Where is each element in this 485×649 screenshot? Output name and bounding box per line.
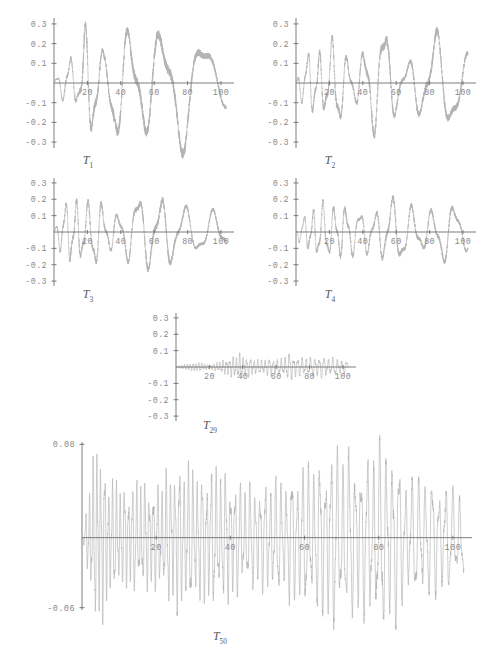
svg-text:-0.1: -0.1 — [267, 244, 289, 254]
panel-t4: 204060801000.30.20.1-0.1-0.2-0.3T4 — [250, 170, 478, 300]
panel-t2: 204060801000.30.20.1-0.1-0.2-0.3T2 — [250, 6, 478, 166]
svg-text:-0.2: -0.2 — [267, 261, 289, 271]
svg-text:80: 80 — [182, 88, 193, 98]
svg-text:60: 60 — [271, 372, 282, 382]
svg-text:60: 60 — [149, 237, 160, 247]
svg-text:-0.2: -0.2 — [267, 118, 289, 128]
svg-text:100: 100 — [455, 237, 471, 247]
svg-text:T3: T3 — [83, 287, 94, 304]
svg-text:40: 40 — [237, 372, 248, 382]
svg-text:-0.1: -0.1 — [267, 99, 289, 109]
svg-text:-0.1: -0.1 — [25, 99, 47, 109]
svg-text:T2: T2 — [325, 153, 336, 170]
svg-text:80: 80 — [304, 372, 315, 382]
svg-text:40: 40 — [225, 543, 236, 553]
panel-t1-plot: 204060801000.30.20.1-0.1-0.2-0.3T1 — [25, 18, 234, 170]
time-series-figure: 204060801000.30.20.1-0.1-0.2-0.3T1 20406… — [0, 0, 485, 649]
svg-text:-0.3: -0.3 — [25, 138, 47, 148]
svg-text:T50: T50 — [213, 629, 227, 646]
svg-text:0.3: 0.3 — [273, 20, 289, 30]
svg-text:0.1: 0.1 — [273, 59, 289, 69]
svg-text:0.2: 0.2 — [153, 330, 169, 340]
svg-text:-0.2: -0.2 — [147, 396, 169, 406]
panel-t50: 204060801000.08-0.06T50 — [20, 432, 470, 647]
svg-text:20: 20 — [82, 237, 93, 247]
panel-t1-svg: 204060801000.30.20.1-0.1-0.2-0.3T1 — [8, 6, 236, 166]
svg-text:-0.2: -0.2 — [25, 118, 47, 128]
svg-text:80: 80 — [424, 88, 435, 98]
svg-text:-0.06: -0.06 — [47, 604, 75, 614]
svg-text:0.2: 0.2 — [31, 195, 47, 205]
svg-text:80: 80 — [373, 543, 384, 553]
panel-t3: 204060801000.30.20.1-0.1-0.2-0.3T3 — [8, 170, 236, 300]
svg-text:0.1: 0.1 — [31, 212, 47, 222]
panel-t29-svg: 204060801000.30.20.1-0.1-0.2-0.3T29 — [128, 305, 358, 430]
svg-text:20: 20 — [151, 543, 162, 553]
svg-text:0.2: 0.2 — [31, 40, 47, 50]
panel-t4-svg: 204060801000.30.20.1-0.1-0.2-0.3T4 — [250, 170, 478, 300]
svg-text:100: 100 — [213, 88, 229, 98]
panel-t50-svg: 204060801000.08-0.06T50 — [20, 432, 470, 647]
svg-text:20: 20 — [204, 372, 215, 382]
svg-text:0.3: 0.3 — [31, 20, 47, 30]
panel-t4-plot: 204060801000.30.20.1-0.1-0.2-0.3T4 — [267, 178, 476, 304]
svg-text:20: 20 — [82, 88, 93, 98]
svg-text:100: 100 — [455, 88, 471, 98]
panel-t3-svg: 204060801000.30.20.1-0.1-0.2-0.3T3 — [8, 170, 236, 300]
svg-text:-0.3: -0.3 — [267, 277, 289, 287]
svg-text:T4: T4 — [325, 287, 336, 304]
svg-text:40: 40 — [115, 88, 126, 98]
svg-text:T1: T1 — [83, 153, 94, 170]
svg-text:-0.3: -0.3 — [25, 277, 47, 287]
svg-text:-0.2: -0.2 — [25, 261, 47, 271]
svg-text:60: 60 — [391, 88, 402, 98]
svg-text:-0.1: -0.1 — [147, 379, 169, 389]
svg-text:0.1: 0.1 — [273, 212, 289, 222]
svg-text:0.3: 0.3 — [273, 179, 289, 189]
svg-text:0.2: 0.2 — [273, 40, 289, 50]
svg-text:0.1: 0.1 — [153, 347, 169, 357]
panel-t50-plot: 204060801000.08-0.06T50 — [47, 435, 472, 645]
svg-text:0.1: 0.1 — [31, 59, 47, 69]
svg-text:-0.3: -0.3 — [267, 138, 289, 148]
svg-text:80: 80 — [424, 237, 435, 247]
svg-text:40: 40 — [357, 88, 368, 98]
svg-text:-0.1: -0.1 — [25, 244, 47, 254]
svg-text:100: 100 — [335, 372, 351, 382]
svg-text:60: 60 — [149, 88, 160, 98]
svg-text:60: 60 — [299, 543, 310, 553]
svg-text:40: 40 — [357, 237, 368, 247]
svg-text:0.2: 0.2 — [273, 195, 289, 205]
svg-text:-0.3: -0.3 — [147, 412, 169, 422]
svg-text:100: 100 — [445, 543, 462, 553]
svg-text:60: 60 — [391, 237, 402, 247]
svg-text:0.3: 0.3 — [31, 179, 47, 189]
panel-t29-plot: 204060801000.30.20.1-0.1-0.2-0.3T29 — [147, 313, 356, 435]
panel-t2-plot: 204060801000.30.20.1-0.1-0.2-0.3T2 — [267, 18, 476, 170]
panel-t1: 204060801000.30.20.1-0.1-0.2-0.3T1 — [8, 6, 236, 166]
svg-text:20: 20 — [324, 237, 335, 247]
svg-text:100: 100 — [213, 237, 229, 247]
svg-text:0.3: 0.3 — [153, 314, 169, 324]
panel-t29: 204060801000.30.20.1-0.1-0.2-0.3T29 — [128, 305, 358, 430]
svg-text:0.08: 0.08 — [53, 440, 75, 450]
svg-text:20: 20 — [324, 88, 335, 98]
panel-t3-plot: 204060801000.30.20.1-0.1-0.2-0.3T3 — [25, 178, 234, 304]
svg-text:80: 80 — [182, 237, 193, 247]
svg-text:40: 40 — [115, 237, 126, 247]
panel-t2-svg: 204060801000.30.20.1-0.1-0.2-0.3T2 — [250, 6, 478, 166]
